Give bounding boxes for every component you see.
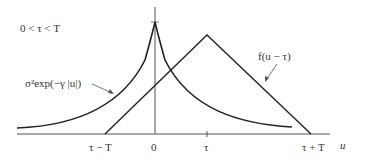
tick-label-zero: 0 xyxy=(151,141,157,153)
tick-label-tau: τ xyxy=(204,141,209,153)
tick-label-tau-minus-T: τ − T xyxy=(89,141,112,153)
tick-label-tau-plus-T: τ + T xyxy=(302,141,325,153)
arrow-head-icon xyxy=(108,89,114,94)
axis-label-u: u xyxy=(340,139,346,151)
condition-label: 0 < τ < T xyxy=(20,22,60,34)
convolution-diagram: 0 < τ < T σ²exp(−γ |u|) f(u − τ) u τ − T… xyxy=(0,0,365,159)
f-label: f(u − τ) xyxy=(258,50,291,63)
exp-label: σ²exp(−γ |u|) xyxy=(25,77,81,90)
